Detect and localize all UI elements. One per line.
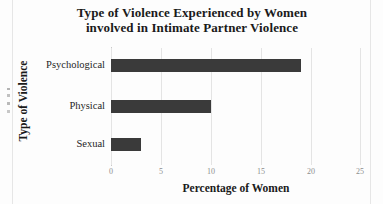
- bar-psychological: [111, 59, 301, 72]
- gridline-20: [311, 48, 312, 165]
- gridline-25: [360, 48, 361, 165]
- x-tick-label-0: 0: [109, 167, 113, 176]
- x-tick-label-25: 25: [356, 167, 364, 176]
- chart-title: Type of Violence Experienced by Women in…: [36, 5, 348, 35]
- chart-figure: Type of Violence Experienced by Women in…: [0, 0, 383, 204]
- scan-artifact-left-edge: [12, 0, 13, 204]
- chart-title-line-1: Type of Violence Experienced by Women: [36, 5, 348, 20]
- plot-area: [111, 48, 361, 165]
- chart-title-line-2: involved in Intimate Partner Violence: [36, 20, 348, 35]
- scan-artifact-right-edge: [370, 0, 371, 204]
- x-tick-label-15: 15: [257, 167, 265, 176]
- x-tick-label-5: 5: [159, 167, 163, 176]
- category-label-sexual: Sexual: [76, 138, 105, 149]
- bar-sexual: [111, 138, 141, 151]
- x-tick-label-20: 20: [307, 167, 315, 176]
- scan-artifact-speckles: [7, 88, 10, 122]
- category-label-psychological: Psychological: [46, 59, 105, 70]
- x-axis-title: Percentage of Women: [111, 182, 361, 194]
- bar-physical: [111, 100, 211, 113]
- y-axis-title: Type of Violence: [17, 51, 29, 151]
- category-label-physical: Physical: [69, 100, 105, 111]
- x-tick-label-10: 10: [207, 167, 215, 176]
